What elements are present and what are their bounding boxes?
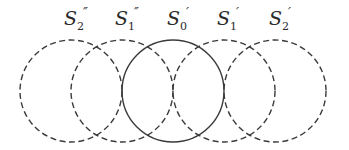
overlapping-circles-diagram: S2″ S1″ S0′ S1′ S2′ bbox=[0, 0, 349, 150]
label-S2-prime: S2′ bbox=[269, 5, 291, 33]
label-S1-double-prime: S1″ bbox=[115, 5, 139, 33]
circles-group bbox=[20, 40, 326, 142]
label-S0-prime: S0′ bbox=[167, 5, 189, 33]
label-S2-double-prime: S2″ bbox=[64, 5, 88, 33]
labels-group: S2″ S1″ S0′ S1′ S2′ bbox=[64, 5, 291, 33]
circle-S2-double-prime bbox=[20, 40, 122, 142]
label-S1-prime: S1′ bbox=[217, 5, 239, 33]
